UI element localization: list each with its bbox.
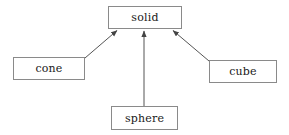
edge-cone-to-solid (85, 31, 117, 59)
node-cone[interactable]: cone (13, 57, 85, 80)
node-sphere-label: sphere (125, 112, 164, 123)
node-solid-label: solid (131, 12, 158, 23)
diagram-canvas: solid cone cube sphere (0, 0, 289, 135)
node-sphere[interactable]: sphere (111, 106, 178, 130)
node-solid[interactable]: solid (108, 6, 182, 29)
node-cone-label: cone (35, 63, 62, 74)
node-cube[interactable]: cube (209, 60, 277, 83)
edge-cube-to-solid (173, 31, 209, 62)
node-cube-label: cube (229, 66, 257, 77)
